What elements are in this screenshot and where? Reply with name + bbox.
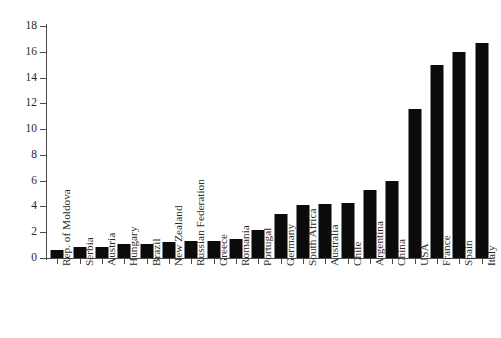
- x-axis-tick: [392, 259, 393, 264]
- bar-slot: [247, 26, 269, 258]
- bar-slot: [426, 26, 448, 258]
- bar-slot: [135, 26, 157, 258]
- y-axis-tick-label: 18: [12, 20, 37, 32]
- x-axis-tick-label: Serbia: [84, 237, 95, 266]
- x-axis-tick-label: Argentina: [374, 221, 385, 266]
- x-axis-tick: [281, 259, 282, 264]
- bar-slot: [471, 26, 493, 258]
- x-axis-tick-label: Australia: [329, 225, 340, 266]
- bar-slot: [91, 26, 113, 258]
- bar-chart: 024681012141618 Rep. of MoldovaSerbiaAus…: [0, 0, 501, 338]
- x-axis-tick-label: Chile: [352, 242, 363, 266]
- plot-area: [46, 26, 493, 258]
- x-axis-tick-label: Spain: [463, 240, 474, 266]
- x-axis-tick: [147, 259, 148, 264]
- bar-slot: [337, 26, 359, 258]
- x-axis-tick: [214, 259, 215, 264]
- x-axis-tick-label: Greece: [218, 234, 229, 266]
- x-axis-tick-label: Hungary: [128, 226, 139, 266]
- x-axis-tick: [124, 259, 125, 264]
- bar[interactable]: [475, 43, 488, 258]
- y-axis-tick-label: 8: [12, 149, 37, 161]
- bar-slot: [448, 26, 470, 258]
- x-axis-tick-label: Romania: [240, 225, 251, 266]
- x-axis-tick: [80, 259, 81, 264]
- x-axis-tick-label: South Africa: [307, 209, 318, 266]
- bar[interactable]: [408, 109, 421, 259]
- x-axis-tick: [348, 259, 349, 264]
- y-axis-tick-label: 0: [12, 252, 37, 264]
- x-axis-tick: [459, 259, 460, 264]
- x-axis-tick: [57, 259, 58, 264]
- y-axis-tick-label: 14: [12, 72, 37, 84]
- x-axis-tick-label: Italy: [486, 245, 497, 266]
- bar-slot: [225, 26, 247, 258]
- x-axis-tick: [102, 259, 103, 264]
- x-axis-tick-label: New Zealand: [173, 205, 184, 266]
- bar-slot: [404, 26, 426, 258]
- bar[interactable]: [453, 52, 466, 258]
- y-axis-tick-label: 12: [12, 97, 37, 109]
- x-axis-tick: [303, 259, 304, 264]
- x-axis-tick: [415, 259, 416, 264]
- x-axis-tick-label: Russian Federation: [195, 179, 206, 266]
- x-axis-tick-label: Portugal: [262, 228, 273, 266]
- y-axis-tick-label: 10: [12, 123, 37, 135]
- x-axis-tick: [437, 259, 438, 264]
- bar[interactable]: [431, 65, 444, 258]
- x-axis-tick-label: Brazil: [151, 238, 162, 266]
- x-axis-tick: [169, 259, 170, 264]
- x-axis-tick: [236, 259, 237, 264]
- y-axis-tick: [40, 258, 46, 259]
- y-axis-tick-label: 4: [12, 200, 37, 212]
- x-axis-tick-label: Germany: [285, 224, 296, 266]
- x-axis-tick: [258, 259, 259, 264]
- y-axis-tick-label: 6: [12, 175, 37, 187]
- x-axis-tick: [370, 259, 371, 264]
- y-axis-tick-label: 16: [12, 46, 37, 58]
- x-axis-tick: [482, 259, 483, 264]
- x-axis-tick-label: France: [441, 235, 452, 266]
- x-axis-tick: [325, 259, 326, 264]
- x-axis-tick-label: USA: [419, 243, 430, 266]
- y-axis-tick-label: 2: [12, 226, 37, 238]
- x-axis-tick-label: China: [396, 239, 407, 266]
- bar-slot: [113, 26, 135, 258]
- x-axis-tick: [191, 259, 192, 264]
- x-axis-tick-label: Austria: [106, 233, 117, 266]
- x-axis-tick-label: Rep. of Moldova: [61, 189, 72, 266]
